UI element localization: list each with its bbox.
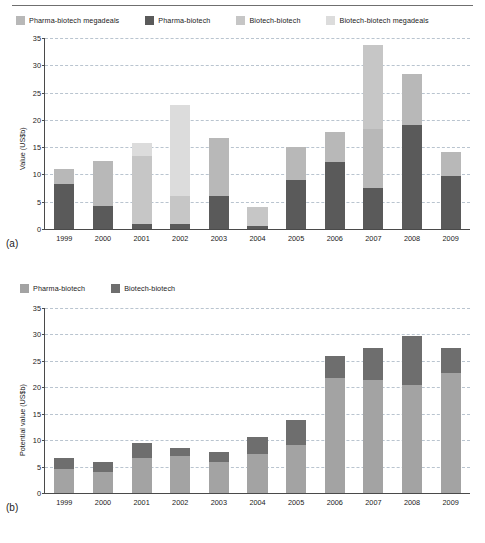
bar-2005[interactable]	[286, 420, 306, 493]
bar-segment-biotech-biotech	[132, 443, 152, 458]
legend-item-biotech-biotech-megadeals[interactable]: Biotech-biotech megadeals	[326, 16, 428, 25]
chart-panel-b: Pharma-biotechBiotech-biotech 0510152025…	[0, 280, 485, 543]
gridline	[45, 65, 470, 66]
bar-segment-pharma-biotech	[170, 456, 190, 493]
bar-segment-pharma-biotech-megadeals	[402, 74, 422, 126]
x-axis-tick-label-2006: 2006	[327, 498, 343, 507]
legend-item-pharma-biotech-megadeals[interactable]: Pharma-biotech megadeals	[16, 16, 119, 25]
bar-segment-pharma-biotech-megadeals	[325, 132, 345, 163]
y-axis-tick-label: 35	[21, 34, 41, 43]
legend-item-pharma-biotech[interactable]: Pharma-biotech	[145, 16, 210, 25]
bar-segment-pharma-biotech	[363, 380, 383, 493]
y-axis-tick-mark	[42, 120, 45, 121]
bar-2005[interactable]	[286, 147, 306, 229]
x-axis-tick-label-2000: 2000	[95, 234, 111, 243]
bar-segment-pharma-biotech	[441, 176, 461, 229]
bar-segment-biotech-biotech	[170, 448, 190, 456]
bar-segment-biotech-biotech	[132, 156, 152, 224]
legend-item-biotech-biotech[interactable]: Biotech-biotech	[236, 16, 300, 25]
legend-panel-a: Pharma-biotech megadealsPharma-biotechBi…	[16, 16, 455, 25]
y-axis-title-panel-b: Potential value (US$b)	[18, 384, 27, 456]
y-axis-tick-mark	[42, 387, 45, 388]
gridline	[45, 38, 470, 39]
y-axis-tick-mark	[42, 229, 45, 230]
y-axis-tick-label: 30	[21, 61, 41, 70]
bar-2000[interactable]	[93, 462, 113, 493]
bar-segment-pharma-biotech	[441, 373, 461, 494]
bar-1999[interactable]	[54, 458, 74, 493]
bar-2007[interactable]	[363, 348, 383, 493]
x-axis-tick-label-2006: 2006	[327, 234, 343, 243]
bar-segment-biotech-biotech	[325, 356, 345, 379]
panel-tag-b: (b)	[6, 502, 18, 513]
x-axis-tick-label-2007: 2007	[365, 234, 381, 243]
bar-2009[interactable]	[441, 348, 461, 493]
legend-swatch-icon	[236, 16, 245, 25]
bar-segment-pharma-biotech	[325, 162, 345, 229]
y-axis-tick-mark	[42, 308, 45, 309]
bar-segment-pharma-biotech	[286, 445, 306, 493]
x-axis-tick-label-2004: 2004	[249, 498, 265, 507]
bar-segment-biotech-biotech	[363, 45, 383, 130]
y-axis-tick-label: 5	[21, 197, 41, 206]
y-axis-tick-label: 20	[21, 115, 41, 124]
bar-2006[interactable]	[325, 132, 345, 229]
x-axis-tick-label-2001: 2001	[133, 498, 149, 507]
bar-2004[interactable]	[247, 437, 267, 493]
y-axis-tick-mark	[42, 440, 45, 441]
bar-2000[interactable]	[93, 161, 113, 229]
legend-label: Biotech-biotech	[249, 16, 300, 25]
y-axis-tick-mark	[42, 38, 45, 39]
bar-2009[interactable]	[441, 152, 461, 229]
y-axis-tick-mark	[42, 334, 45, 335]
legend-label: Pharma-biotech	[158, 16, 210, 25]
bar-segment-biotech-biotech	[54, 458, 74, 469]
bar-segment-pharma-biotech-megadeals	[441, 152, 461, 176]
bar-2004[interactable]	[247, 207, 267, 229]
bar-1999[interactable]	[54, 169, 74, 229]
bar-segment-pharma-biotech	[93, 206, 113, 229]
y-axis-tick-mark	[42, 202, 45, 203]
chart-panel-a: Pharma-biotech megadealsPharma-biotechBi…	[0, 10, 485, 280]
bar-2007[interactable]	[363, 45, 383, 229]
bar-segment-pharma-biotech	[325, 378, 345, 493]
y-axis-tick-label: 0	[21, 489, 41, 498]
bar-segment-biotech-biotech-megadeals	[170, 105, 190, 196]
y-axis-tick-label: 10	[21, 170, 41, 179]
bar-2001[interactable]	[132, 143, 152, 229]
legend-swatch-icon	[145, 16, 154, 25]
bar-segment-pharma-biotech	[132, 224, 152, 229]
bar-2001[interactable]	[132, 443, 152, 493]
y-axis-tick-mark	[42, 467, 45, 468]
plot-area-panel-b: 0510152025303519992000200120022003200420…	[44, 308, 470, 494]
y-axis-title-panel-a: Value (US$b)	[18, 127, 27, 170]
x-axis-tick-label-2005: 2005	[288, 498, 304, 507]
bar-2002[interactable]	[170, 105, 190, 229]
y-axis-tick-mark	[42, 361, 45, 362]
panel-tag-a: (a)	[6, 238, 18, 249]
legend-label: Pharma-biotech	[33, 284, 85, 293]
bar-segment-pharma-biotech	[286, 180, 306, 229]
bar-segment-biotech-biotech	[363, 348, 383, 381]
bar-2008[interactable]	[402, 73, 422, 229]
x-axis-tick-label-2003: 2003	[211, 498, 227, 507]
y-axis-tick-label: 30	[21, 330, 41, 339]
legend-label: Biotech-biotech megadeals	[339, 16, 428, 25]
bar-2003[interactable]	[209, 452, 229, 493]
y-axis-tick-label: 0	[21, 225, 41, 234]
bar-segment-biotech-biotech	[441, 348, 461, 373]
bar-segment-biotech-biotech	[93, 462, 113, 473]
bar-2002[interactable]	[170, 448, 190, 493]
legend-item-biotech-biotech[interactable]: Biotech-biotech	[111, 284, 175, 293]
legend-swatch-icon	[20, 284, 29, 293]
bar-2003[interactable]	[209, 138, 229, 229]
bar-2006[interactable]	[325, 356, 345, 493]
bar-segment-biotech-biotech	[247, 437, 267, 454]
x-axis-tick-label-2003: 2003	[211, 234, 227, 243]
legend-item-pharma-biotech[interactable]: Pharma-biotech	[20, 284, 85, 293]
x-axis-tick-label-1999: 1999	[56, 498, 72, 507]
bar-2008[interactable]	[402, 336, 422, 493]
x-axis-tick-label-2002: 2002	[172, 234, 188, 243]
bar-segment-pharma-biotech-megadeals	[93, 161, 113, 206]
y-axis-tick-mark	[42, 174, 45, 175]
